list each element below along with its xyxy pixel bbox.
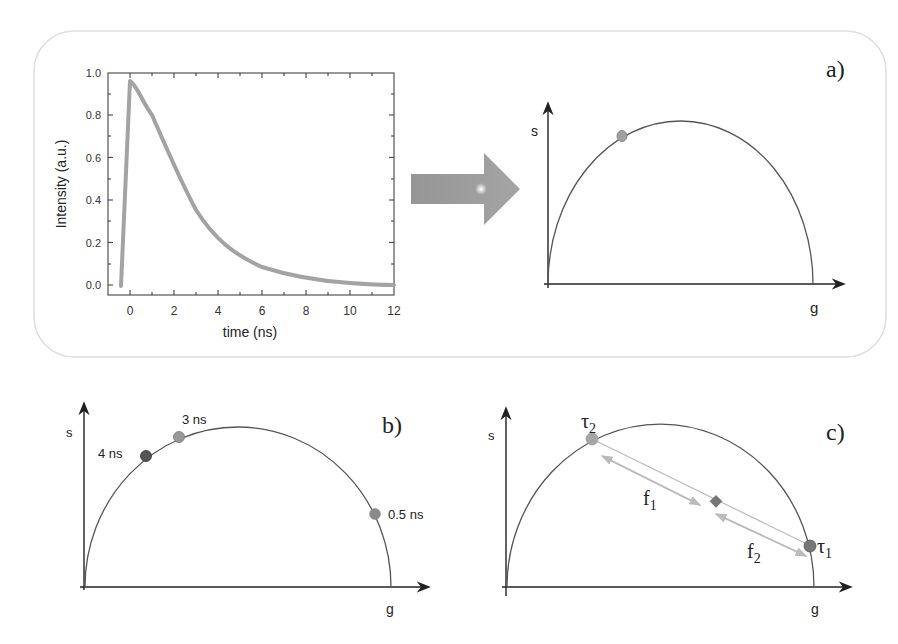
f2-label: f2 [747,540,761,566]
g-axis-label: g [386,601,394,617]
ytick-label: 0.6 [86,152,101,164]
f2-arrow-left [716,514,806,556]
panel-label-a: a) [826,56,845,82]
xtick-label: 10 [343,304,357,318]
figure-canvas: 0.0 0.2 0.4 0.6 0.8 1.0 0 2 4 6 8 10 12 … [0,0,898,644]
point-3ns [174,432,185,443]
lifetime-point [617,131,627,142]
tau1-point [804,540,816,552]
xtick-label: 6 [259,304,266,318]
tau1-label: τ1 [817,535,832,561]
universal-circle-arc [548,121,813,284]
universal-circle-arc [85,427,391,587]
g-axis-label: g [811,601,819,617]
x-axis-label: time (ns) [223,324,277,340]
xtick-label: 2 [171,304,178,318]
xtick-label: 12 [387,304,401,318]
label-0.5ns: 0.5 ns [388,507,424,522]
s-axis-label: s [531,123,538,139]
tau2-label: τ2 [581,410,596,436]
s-axis-label: s [66,425,73,440]
f1-label: f1 [643,487,657,513]
panel-label-c: c) [826,419,845,445]
y-axis-label: Intensity (a.u.) [53,140,69,229]
panel-label-b: b) [382,412,402,438]
ytick-label: 0.4 [86,194,101,206]
point-4ns [141,451,152,462]
ytick-label: 0.2 [86,237,101,249]
ytick-label: 1.0 [86,67,101,79]
decay-curve [121,81,394,286]
transform-arrow-icon [411,153,520,225]
mixture-line [592,439,811,546]
phasor-plot-a: s g a) [531,56,845,316]
phasor-plot-c: τ2 τ1 f1 f2 s g c) [488,409,850,617]
universal-circle-arc [507,424,814,587]
ytick-label: 0.8 [86,109,101,121]
xtick-label: 4 [215,304,222,318]
ytick-label: 0.0 [86,279,101,291]
xtick-label: 0 [127,304,134,318]
label-4ns: 4 ns [98,446,123,461]
g-axis-label: g [810,299,818,316]
xtick-label: 8 [303,304,310,318]
phasor-plot-b: 4 ns 3 ns 0.5 ns s g b) [66,404,428,617]
decay-plot: 0.0 0.2 0.4 0.6 0.8 1.0 0 2 4 6 8 10 12 … [53,67,401,340]
s-axis-label: s [488,428,495,443]
label-3ns: 3 ns [182,412,207,427]
point-0.5ns [370,509,381,520]
